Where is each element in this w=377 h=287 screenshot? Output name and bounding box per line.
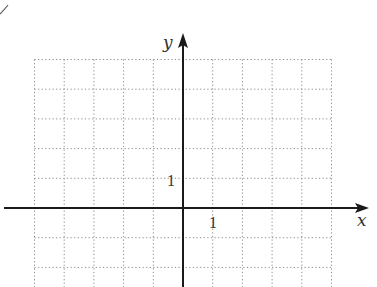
y-tick-label: 1 (167, 172, 175, 189)
cropped-mark (0, 5, 8, 14)
coordinate-plane: y x 1 1 (0, 0, 377, 287)
x-tick-label: 1 (209, 214, 217, 231)
x-axis-label: x (357, 210, 367, 230)
y-axis-label: y (162, 32, 173, 52)
